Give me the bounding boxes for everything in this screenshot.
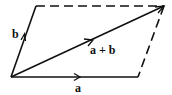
label-b: b [12, 27, 19, 41]
label-sum: a + b [90, 43, 116, 57]
label-a: a [75, 81, 81, 95]
vector-diagram: b a a + b [0, 0, 172, 95]
